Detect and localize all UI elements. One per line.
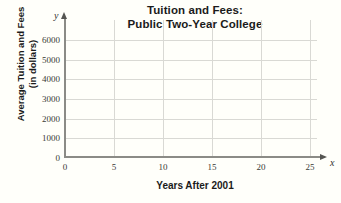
gridline-horizontal	[65, 40, 317, 41]
gridline-horizontal	[65, 60, 317, 61]
y-axis-label-line-1: Average Tuition and Fees	[15, 0, 27, 139]
y-axis-line	[64, 18, 66, 158]
gridline-vertical	[114, 20, 115, 157]
y-axis-label-line-2: (in dollars)	[27, 0, 39, 139]
x-tick-label: 25	[295, 162, 325, 172]
gridline-vertical	[212, 20, 213, 157]
chart-figure: Tuition and Fees: Public Two-Year Colleg…	[0, 0, 341, 203]
x-tick-label: 15	[197, 162, 227, 172]
gridline-horizontal	[65, 79, 317, 80]
chart-title-line-1: Tuition and Fees:	[70, 4, 320, 18]
gridline-vertical	[163, 20, 164, 157]
y-axis-label: Average Tuition and Fees (in dollars)	[15, 0, 39, 139]
plot-area	[65, 20, 325, 157]
gridline-horizontal	[65, 119, 317, 120]
y-axis-arrow-icon	[61, 12, 67, 19]
x-axis-letter: x	[330, 157, 334, 168]
x-tick-label: 20	[246, 162, 276, 172]
x-tick-label: 5	[99, 162, 129, 172]
x-tick-label: 0	[50, 162, 80, 172]
gridline-horizontal	[65, 138, 317, 139]
gridline-vertical	[310, 20, 311, 157]
x-axis-label: Years After 2001	[65, 180, 325, 191]
x-axis-line	[64, 156, 325, 158]
x-axis-arrow-icon	[320, 154, 327, 160]
x-tick-label: 10	[148, 162, 178, 172]
gridline-vertical	[261, 20, 262, 157]
gridline-horizontal	[65, 99, 317, 100]
